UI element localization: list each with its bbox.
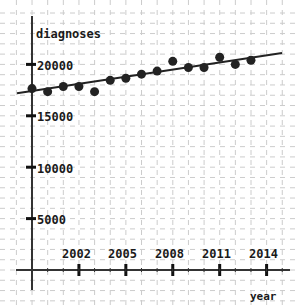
data-point (168, 57, 177, 66)
data-point (246, 56, 255, 65)
data-point (121, 74, 130, 83)
data-point (43, 87, 52, 96)
y-tick (26, 114, 36, 117)
x-tick-label-2005: 2005 (108, 247, 137, 261)
data-point (59, 82, 68, 91)
x-tick-label-2011: 2011 (202, 247, 231, 261)
y-tick (26, 217, 36, 220)
data-point (153, 67, 162, 76)
data-point (215, 53, 224, 62)
y-axis-label: diagnoses (36, 27, 101, 41)
x-tick-label-2002: 2002 (62, 247, 91, 261)
data-point (106, 76, 115, 85)
data-point (28, 84, 37, 93)
y-tick-label-10000: 10000 (37, 162, 73, 176)
chart-svg: diagnoses year 20000 15000 10000 5000 20… (0, 0, 296, 306)
x-axis-label: year (250, 290, 277, 303)
y-tick-label-15000: 15000 (37, 110, 73, 124)
data-point (231, 60, 240, 69)
data-point (74, 82, 83, 91)
data-point (90, 87, 99, 96)
y-tick (26, 166, 36, 169)
x-tick-label-2014: 2014 (249, 247, 278, 261)
y-tick (26, 63, 36, 66)
data-point (137, 70, 146, 79)
data-point (200, 63, 209, 72)
y-tick-label-5000: 5000 (37, 213, 66, 227)
data-point (184, 63, 193, 72)
y-tick-label-20000: 20000 (37, 59, 73, 73)
x-tick-label-2008: 2008 (155, 247, 184, 261)
scatter-chart: diagnoses year 20000 15000 10000 5000 20… (0, 0, 296, 306)
